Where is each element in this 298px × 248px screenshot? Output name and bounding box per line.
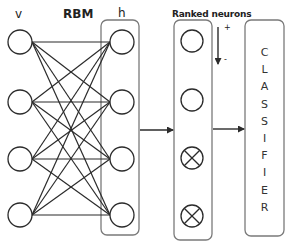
visible-layer (8, 30, 32, 227)
ranked-neurons-title: Ranked neurons (172, 10, 251, 19)
classifier-letter: C (261, 44, 269, 61)
ranked-unit-dropped (181, 205, 203, 227)
classifier-letter: L (261, 61, 267, 78)
ranked-unit-kept (181, 30, 203, 52)
ranked-layer (181, 30, 203, 227)
rbm-label: RBM (63, 8, 93, 20)
visible-layer-label: v (15, 8, 22, 20)
classifier-letter: F (261, 147, 267, 164)
classifier-letter: I (263, 130, 266, 147)
visible-unit (8, 90, 32, 114)
classifier-letter: E (261, 182, 268, 199)
hidden-layer (110, 30, 134, 227)
rbm-connections (32, 42, 110, 215)
ranked-unit-dropped (181, 147, 203, 169)
classifier-letter: R (261, 199, 269, 216)
hidden-unit (110, 147, 134, 171)
classifier-letter: I (263, 164, 266, 181)
rank-high-label: + (224, 24, 231, 32)
visible-unit (8, 147, 32, 171)
classifier-letter: A (261, 78, 269, 95)
hidden-unit (110, 30, 134, 54)
hidden-layer-label: h (118, 7, 126, 19)
visible-unit (8, 203, 32, 227)
ranked-unit-kept (181, 89, 203, 111)
rank-low-label: - (224, 56, 227, 64)
classifier-label: C L A S S I F I E R (245, 44, 284, 216)
hidden-unit (110, 90, 134, 114)
classifier-letter: S (261, 113, 268, 130)
classifier-letter: S (261, 96, 268, 113)
hidden-unit (110, 203, 134, 227)
visible-unit (8, 30, 32, 54)
